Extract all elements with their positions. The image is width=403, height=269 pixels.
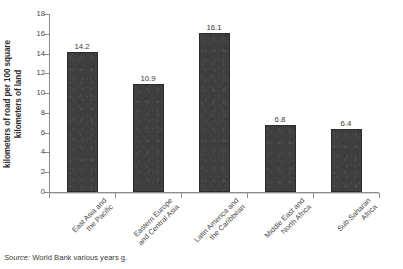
y-axis-tick-label: 4 [11,148,45,156]
y-axis-tick-label: 10 [11,89,45,97]
x-axis-category-labels: East Asia andthe PacificEastern European… [49,196,379,248]
bar-value-label: 10.9 [140,75,155,83]
y-axis-tick-label: 0 [11,188,45,196]
bar-value-label: 16.1 [206,24,221,32]
source-prefix: Source: [4,253,30,262]
source-text: World Bank various years g. [32,253,127,262]
bar-value-label: 6.8 [275,116,286,124]
bar: 14.2 [67,52,98,192]
bar-value-label: 6.4 [341,120,352,128]
y-axis-tick-labels: 024681012141618 [7,14,45,192]
bar-value-label: 14.2 [74,43,89,51]
y-axis-tick-label: 16 [11,30,45,38]
x-axis-tick [379,193,380,198]
y-axis-tick-label: 6 [11,129,45,137]
y-axis-line [49,14,50,192]
y-axis-tick-label: 12 [11,69,45,77]
y-axis-tick-label: 18 [11,10,45,18]
bar: 6.8 [265,125,296,192]
bar: 16.1 [199,33,230,192]
x-axis-shadow [50,193,380,194]
y-axis-tick-label: 2 [11,168,45,176]
source-note: Source: World Bank various years g. [4,253,127,262]
bar: 10.9 [133,84,164,192]
bar: 6.4 [331,129,362,192]
plot-area: 024681012141618 14.210.916.16.86.4 [49,14,379,192]
bar-chart-figure: kilometers of road per 100 square kilome… [0,0,403,269]
y-axis-tick-label: 8 [11,109,45,117]
y-axis-tick-label: 14 [11,50,45,58]
